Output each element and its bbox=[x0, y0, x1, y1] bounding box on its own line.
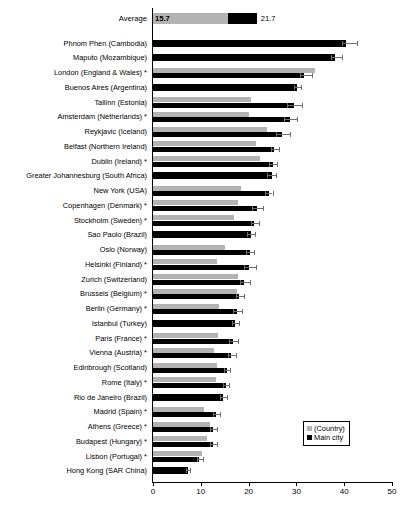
error-bar-cap-18-low bbox=[233, 309, 234, 314]
error-bar-line-4 bbox=[287, 105, 302, 106]
error-bar-line-13 bbox=[247, 234, 256, 235]
error-bar-line-20 bbox=[229, 341, 238, 342]
row-label-11: Copenhagen (Denmark) * bbox=[63, 202, 147, 210]
main-city-bar-23 bbox=[153, 383, 226, 388]
row-label-13: Sao Paolo (Brazil) bbox=[87, 231, 147, 239]
main-city-bar-9 bbox=[153, 172, 272, 179]
error-bar-cap-22-low bbox=[224, 368, 225, 373]
error-bar-cap-23-low bbox=[223, 383, 224, 388]
country-bar-2 bbox=[153, 68, 315, 73]
error-bar-line-0 bbox=[342, 43, 356, 44]
error-bar-cap-9-low bbox=[267, 173, 268, 178]
x-tick-label-0: 0 bbox=[141, 487, 165, 496]
error-bar-cap-26-low bbox=[210, 427, 211, 432]
error-bar-cap-17-low bbox=[236, 294, 237, 299]
error-bar-cap-26-high bbox=[217, 427, 218, 432]
x-tick-label-50: 50 bbox=[380, 487, 401, 496]
error-bar-cap-4-low bbox=[287, 103, 288, 108]
error-bar-cap-7-low bbox=[271, 147, 272, 152]
country-bar-16 bbox=[153, 274, 238, 279]
row-label-9: Greater Johannesburg (South Africa) bbox=[26, 172, 147, 180]
main-city-bar-3 bbox=[153, 84, 297, 91]
x-tick-30 bbox=[296, 482, 297, 486]
country-bar-28 bbox=[153, 451, 202, 456]
error-bar-cap-8-high bbox=[277, 162, 278, 167]
average-main-city-bar bbox=[228, 13, 257, 24]
row-label-8: Dublin (Ireland) * bbox=[92, 158, 147, 166]
main-city-bar-2 bbox=[153, 73, 304, 78]
main-city-bar-15 bbox=[153, 265, 249, 270]
main-city-bar-8 bbox=[153, 162, 273, 167]
country-bar-20 bbox=[153, 333, 218, 338]
x-tick-10 bbox=[201, 482, 202, 486]
error-bar-cap-16-low bbox=[240, 280, 241, 285]
row-label-20: Paris (France) * bbox=[95, 335, 147, 343]
row-label-17: Brussels (Belgium) * bbox=[80, 290, 147, 298]
legend-label-country: (Country) bbox=[314, 424, 345, 433]
row-label-19: Istanbul (Turkey) bbox=[92, 320, 147, 328]
country-bar-12 bbox=[153, 215, 234, 220]
error-bar-cap-27-high bbox=[217, 442, 218, 447]
error-bar-cap-25-low bbox=[213, 412, 214, 417]
error-bar-cap-3-low bbox=[294, 85, 295, 90]
error-bar-line-23 bbox=[223, 385, 230, 386]
error-bar-cap-2-high bbox=[312, 73, 313, 78]
error-bar-line-7 bbox=[271, 149, 280, 150]
country-bar-5 bbox=[153, 112, 249, 117]
error-bar-line-12 bbox=[251, 223, 260, 224]
x-tick-label-30: 30 bbox=[284, 487, 308, 496]
error-bar-line-27 bbox=[210, 444, 217, 445]
main-city-bar-11 bbox=[153, 206, 257, 211]
error-bar-cap-11-high bbox=[263, 206, 264, 211]
row-label-27: Budapest (Hungary) * bbox=[76, 438, 147, 446]
error-bar-line-19 bbox=[232, 323, 239, 324]
error-bar-line-25 bbox=[213, 414, 220, 415]
error-bar-line-14 bbox=[246, 252, 255, 253]
error-bar-cap-13-high bbox=[255, 232, 256, 237]
main-city-bar-19 bbox=[153, 320, 235, 327]
error-bar-line-22 bbox=[224, 370, 231, 371]
error-bar-cap-10-high bbox=[273, 191, 274, 196]
error-bar-cap-21-high bbox=[236, 353, 237, 358]
main-city-bar-20 bbox=[153, 339, 233, 344]
error-bar-cap-2-low bbox=[300, 73, 301, 78]
error-bar-cap-10-low bbox=[265, 191, 266, 196]
row-label-23: Rome (Italy) * bbox=[102, 379, 147, 387]
error-bar-cap-14-high bbox=[254, 250, 255, 255]
row-label-3: Buenos Aires (Argentina) bbox=[65, 84, 147, 92]
error-bar-line-6 bbox=[276, 134, 289, 135]
x-tick-label-40: 40 bbox=[332, 487, 356, 496]
row-label-7: Belfast (Northern Ireland) bbox=[64, 143, 147, 151]
error-bar-cap-15-low bbox=[244, 265, 245, 270]
error-bar-cap-28-high bbox=[203, 457, 204, 462]
error-bar-cap-23-high bbox=[229, 383, 230, 388]
error-bar-cap-22-high bbox=[230, 368, 231, 373]
error-bar-cap-0-high bbox=[357, 41, 358, 46]
error-bar-cap-11-low bbox=[252, 206, 253, 211]
error-bar-cap-20-high bbox=[238, 339, 239, 344]
country-bar-4 bbox=[153, 97, 251, 102]
error-bar-cap-3-high bbox=[301, 85, 302, 90]
main-city-bar-16 bbox=[153, 280, 244, 285]
error-bar-line-21 bbox=[228, 355, 237, 356]
main-city-bar-25 bbox=[153, 412, 216, 417]
error-bar-cap-16-high bbox=[250, 280, 251, 285]
x-tick-40 bbox=[344, 482, 345, 486]
error-bar-cap-19-low bbox=[232, 321, 233, 326]
main-city-bar-28 bbox=[153, 457, 199, 462]
x-tick-label-10: 10 bbox=[189, 487, 213, 496]
main-city-bar-22 bbox=[153, 368, 227, 373]
error-bar-cap-14-low bbox=[246, 250, 247, 255]
x-tick-label-20: 20 bbox=[237, 487, 261, 496]
error-bar-cap-0-low bbox=[342, 41, 343, 46]
main-city-bar-18 bbox=[153, 309, 237, 314]
country-bar-27 bbox=[153, 436, 207, 441]
error-bar-line-2 bbox=[300, 75, 311, 76]
row-label-28: Lisbon (Portugal) * bbox=[86, 453, 147, 461]
row-label-5: Amsterdam (Netherlands) * bbox=[57, 113, 147, 121]
row-label-10: New York (USA) bbox=[94, 187, 147, 195]
country-bar-18 bbox=[153, 304, 219, 309]
country-bar-26 bbox=[153, 422, 210, 427]
row-label-14: Oslo (Norway) bbox=[100, 246, 147, 254]
row-label-24: Rio de Janeiro (Brazil) bbox=[74, 394, 147, 402]
